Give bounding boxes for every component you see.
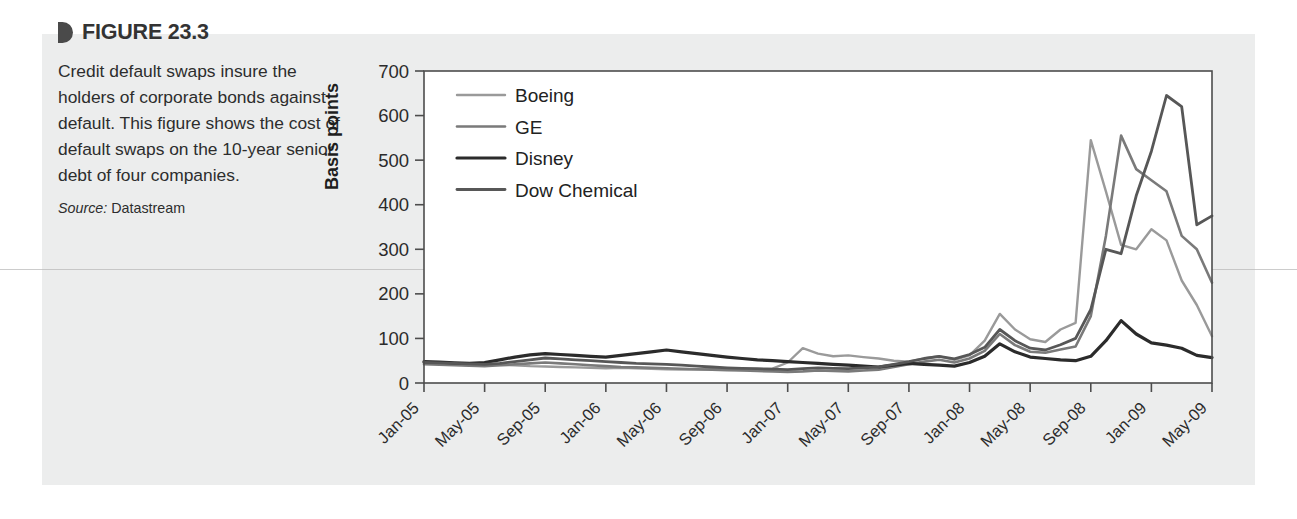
y-tick-label: 0	[399, 373, 409, 394]
x-tick-label: Jan-07	[737, 398, 785, 446]
x-tick-label: Jan-06	[556, 398, 604, 446]
source-value: Datastream	[111, 200, 185, 216]
figure-source: Source: Datastream	[58, 200, 348, 216]
x-tick-label: Sep-08	[1039, 398, 1089, 448]
chart-container: Basis points 0100200300400500600700 Jan-…	[330, 40, 1260, 480]
x-tick-label: Jan-09	[1101, 398, 1149, 446]
figure-heading: FIGURE 23.3	[58, 20, 348, 45]
x-tick-label: May-09	[1158, 398, 1210, 450]
cds-spread-line-chart: 0100200300400500600700 Jan-05May-05Sep-0…	[330, 40, 1260, 480]
x-tick-label: Jan-05	[374, 398, 422, 446]
x-axis-ticks: Jan-05May-05Sep-05Jan-06May-06Sep-06Jan-…	[374, 383, 1212, 450]
y-tick-label: 100	[378, 328, 409, 349]
figure-caption-text: Credit default swaps insure the holders …	[58, 58, 348, 188]
x-tick-label: Sep-07	[857, 398, 907, 448]
legend-label: Disney	[515, 148, 574, 169]
legend-label: Dow Chemical	[515, 180, 637, 201]
x-tick-label: May-06	[613, 398, 665, 450]
y-tick-label: 500	[378, 150, 409, 171]
y-tick-label: 300	[378, 239, 409, 260]
x-tick-label: Sep-05	[493, 398, 543, 448]
legend-label: GE	[515, 117, 542, 138]
x-tick-label: May-07	[795, 398, 847, 450]
x-tick-label: Jan-08	[919, 398, 967, 446]
y-tick-label: 400	[378, 194, 409, 215]
y-tick-label: 600	[378, 105, 409, 126]
figure-title: FIGURE 23.3	[82, 20, 209, 45]
y-tick-label: 700	[378, 61, 409, 82]
figure-caption-column: FIGURE 23.3 Credit default swaps insure …	[58, 20, 348, 216]
legend-label: Boeing	[515, 85, 574, 106]
triangle-marker-icon	[58, 22, 73, 43]
y-axis-ticks: 0100200300400500600700	[378, 61, 424, 394]
source-label: Source:	[58, 200, 107, 216]
x-tick-label: Sep-06	[675, 398, 725, 448]
x-tick-label: May-08	[977, 398, 1029, 450]
y-tick-label: 200	[378, 283, 409, 304]
x-tick-label: May-05	[431, 398, 483, 450]
